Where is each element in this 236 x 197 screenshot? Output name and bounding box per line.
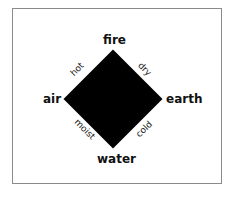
element-label-water: water xyxy=(97,153,136,165)
element-label-air: air xyxy=(43,93,61,105)
element-label-fire: fire xyxy=(103,34,126,46)
element-label-earth: earth xyxy=(166,93,202,105)
